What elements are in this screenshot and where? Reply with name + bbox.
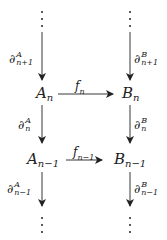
label-d-B-n: ∂Bn [134, 117, 147, 133]
node-B-n: Bn [122, 86, 139, 103]
label-d-B-n+1: ∂Bn+1 [134, 51, 158, 67]
label-d-A-n-1: ∂An−1 [7, 181, 31, 197]
node-B-n-1: Bn−1 [114, 152, 146, 169]
label-f-n: fn [75, 80, 85, 92]
node-A-n-1: An−1 [27, 152, 59, 169]
label-d-B-n-1: ∂Bn−1 [134, 181, 158, 197]
label-d-A-n+1: ∂An+1 [9, 51, 33, 67]
label-d-A-n: ∂An [18, 117, 31, 133]
node-A-n: An [36, 86, 53, 103]
label-f-n-1: fn−1 [73, 146, 94, 158]
